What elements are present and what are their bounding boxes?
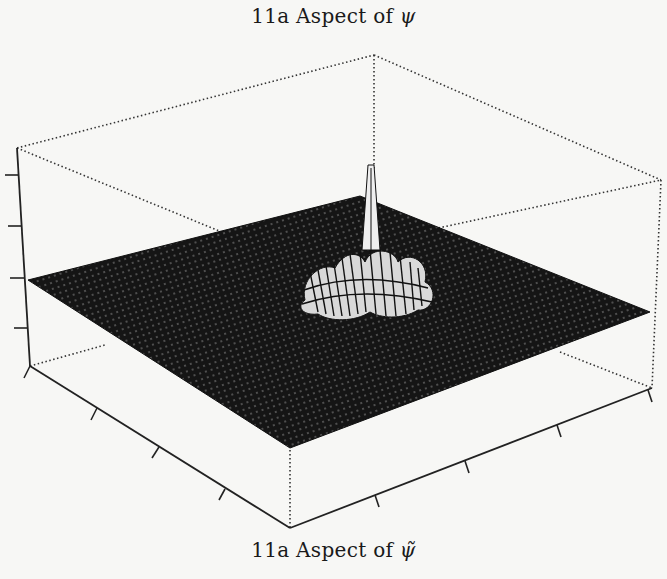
title-bottom-prefix: 11a Aspect of	[251, 538, 400, 562]
z-axis	[17, 148, 30, 366]
title-bottom-symbol: ψ̃	[400, 538, 416, 562]
surface-plot	[0, 0, 667, 579]
figure-title-bottom: 11a Aspect of ψ̃	[0, 538, 667, 562]
mesh-surface	[28, 196, 650, 448]
